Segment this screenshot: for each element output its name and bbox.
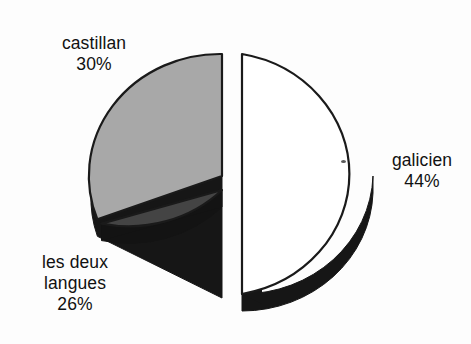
pie-chart-figure: castillan 30% galicien 44% les deux lang… [0, 0, 471, 344]
pie-label-les-deux-langues-name-2: langues [8, 273, 142, 294]
pie-label-galicien-name: galicien [374, 150, 470, 171]
pie-label-les-deux-langues-name-1: les deux [8, 252, 142, 273]
pie-label-castillan-name: castillan [34, 33, 154, 54]
pie-label-galicien-value: 44% [374, 171, 470, 192]
pie-label-les-deux-langues-value: 26% [8, 294, 142, 315]
pie-label-castillan: castillan 30% [34, 33, 154, 75]
pie-slice-galicien [242, 54, 373, 311]
pie-label-galicien: galicien 44% [374, 150, 470, 192]
scan-speck-artifact [341, 160, 346, 163]
pie-label-les-deux-langues: les deux langues 26% [8, 252, 142, 315]
pie-label-castillan-value: 30% [34, 54, 154, 75]
